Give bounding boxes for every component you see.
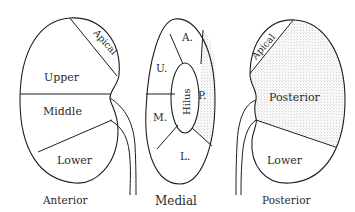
medial-posterior-shaded bbox=[192, 30, 216, 146]
medial-view: A. U. M. L. P. Hilus Medial bbox=[146, 19, 216, 208]
anterior-label-middle: Middle bbox=[43, 105, 82, 118]
posterior-label-posterior: Posterior bbox=[269, 91, 321, 104]
medial-label-a: A. bbox=[181, 31, 193, 43]
anterior-caption: Anterior bbox=[42, 194, 88, 206]
posterior-ureter bbox=[236, 100, 256, 195]
anterior-label-upper: Upper bbox=[44, 71, 80, 84]
renal-segments-diagram: Apical Upper Middle Lower Anterior A. U.… bbox=[0, 0, 355, 212]
anterior-ureter bbox=[110, 98, 136, 195]
medial-caption: Medial bbox=[155, 194, 197, 208]
medial-label-u: U. bbox=[156, 62, 167, 74]
posterior-view: Apical Posterior Lower Posterior bbox=[236, 18, 350, 206]
medial-label-hilus: Hilus bbox=[181, 88, 192, 115]
posterior-label-lower: Lower bbox=[267, 154, 303, 167]
medial-label-p: P. bbox=[198, 89, 206, 101]
anterior-label-lower: Lower bbox=[57, 154, 93, 167]
medial-label-l: L. bbox=[180, 150, 190, 162]
medial-label-m: M. bbox=[153, 111, 167, 123]
posterior-caption: Posterior bbox=[262, 194, 311, 206]
anterior-view: Apical Upper Middle Lower Anterior bbox=[18, 17, 136, 206]
